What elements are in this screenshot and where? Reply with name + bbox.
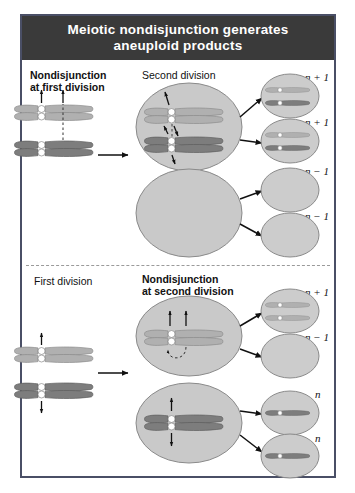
bottom-division-cell-upper <box>136 296 242 376</box>
product-arrow <box>240 98 262 117</box>
product-arrow <box>240 191 262 199</box>
centromere-icon <box>38 113 45 120</box>
centromere-icon <box>168 145 175 152</box>
product-arrow <box>240 435 262 452</box>
top-left-chromosome-group <box>15 90 93 157</box>
centromere-icon <box>38 355 45 362</box>
gamete-top-4 <box>261 213 319 257</box>
bottom-division-cell-lower <box>136 383 242 463</box>
centromere-icon <box>278 316 282 320</box>
centromere-icon <box>38 384 45 391</box>
centromere-icon <box>38 142 45 149</box>
centromere-icon <box>278 101 282 105</box>
centromere-icon <box>168 331 175 338</box>
centromere-icon <box>168 416 175 423</box>
centromere-icon <box>168 423 175 430</box>
centromere-icon <box>38 106 45 113</box>
centromere-icon <box>278 88 282 92</box>
gamete-bottom-2 <box>261 334 319 378</box>
centromere-icon <box>168 116 175 123</box>
diagram-canvas <box>0 0 355 493</box>
gamete-bottom-3 <box>261 391 319 435</box>
product-arrow <box>240 224 262 236</box>
centromere-icon <box>168 138 175 145</box>
bivalent-dark-top <box>15 141 93 157</box>
centromere-icon <box>38 149 45 156</box>
bottom-left-chromosome-group <box>15 333 93 413</box>
product-arrow <box>240 349 262 357</box>
gamete-top-3 <box>261 168 319 212</box>
bivalent-light-top <box>15 105 93 121</box>
product-arrow <box>240 313 262 326</box>
centromere-icon <box>278 133 282 137</box>
product-arrow <box>240 140 262 143</box>
gamete-top-2 <box>261 119 319 163</box>
centromere-icon <box>278 146 282 150</box>
centromere-icon <box>278 303 282 307</box>
centromere-icon <box>168 338 175 345</box>
gamete-bottom-1 <box>261 289 319 333</box>
gamete-top-1 <box>261 74 319 118</box>
centromere-icon <box>38 348 45 355</box>
centromere-icon <box>168 109 175 116</box>
gamete-bottom-4 <box>261 434 319 478</box>
meiosis-nondisjunction-figure: Meiotic nondisjunction generates aneuplo… <box>0 0 355 493</box>
top-division-cell-lower <box>136 169 242 257</box>
centromere-icon <box>278 411 282 415</box>
centromere-icon <box>38 391 45 398</box>
bivalent-light-bottom <box>15 347 93 363</box>
product-arrow <box>240 411 262 414</box>
top-division-cell-upper <box>136 83 242 171</box>
centromere-icon <box>278 454 282 458</box>
bivalent-dark-bottom <box>15 383 93 399</box>
